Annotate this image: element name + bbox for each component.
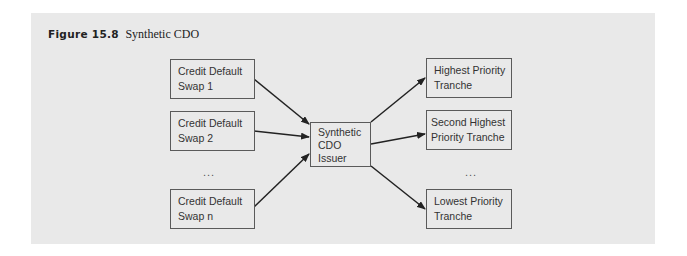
arrow-swapn-to-issuer (254, 154, 309, 207)
box-label-line: Second Highest (431, 115, 507, 130)
box-label-line: Issuer (318, 152, 363, 165)
box-label-line: Swap 1 (178, 79, 247, 94)
output-box-second-highest: Second Highest Priority Tranche (426, 110, 512, 150)
box-label-line: Synthetic (318, 126, 363, 139)
inputs-ellipsis: ... (203, 166, 215, 178)
output-box-lowest: Lowest Priority Tranche (426, 189, 512, 229)
input-box-swap-1: Credit Default Swap 1 (170, 59, 255, 99)
arrow-issuer-to-lowest (371, 166, 425, 209)
box-label-line: Tranche (434, 78, 504, 93)
outputs-ellipsis: ... (465, 166, 477, 178)
box-label-line: Lowest Priority (434, 194, 504, 209)
box-label-line: CDO (318, 139, 363, 152)
box-label-line: Highest Priority (434, 63, 504, 78)
box-label-line: Swap 2 (178, 131, 247, 146)
box-label-line: Credit Default (178, 194, 247, 209)
arrow-issuer-to-second (371, 134, 425, 144)
arrow-swap1-to-issuer (254, 79, 309, 124)
arrow-swap2-to-issuer (254, 131, 309, 137)
output-box-highest: Highest Priority Tranche (426, 58, 512, 98)
box-label-line: Credit Default (178, 64, 247, 79)
issuer-box: Synthetic CDO Issuer (310, 122, 371, 167)
arrow-issuer-to-highest (371, 78, 425, 122)
box-label-line: Tranche (434, 209, 504, 224)
box-label-line: Credit Default (178, 116, 247, 131)
input-box-swap-n: Credit Default Swap n (170, 189, 255, 229)
box-label-line: Priority Tranche (431, 130, 507, 145)
box-label-line: Swap n (178, 209, 247, 224)
input-box-swap-2: Credit Default Swap 2 (170, 111, 255, 151)
